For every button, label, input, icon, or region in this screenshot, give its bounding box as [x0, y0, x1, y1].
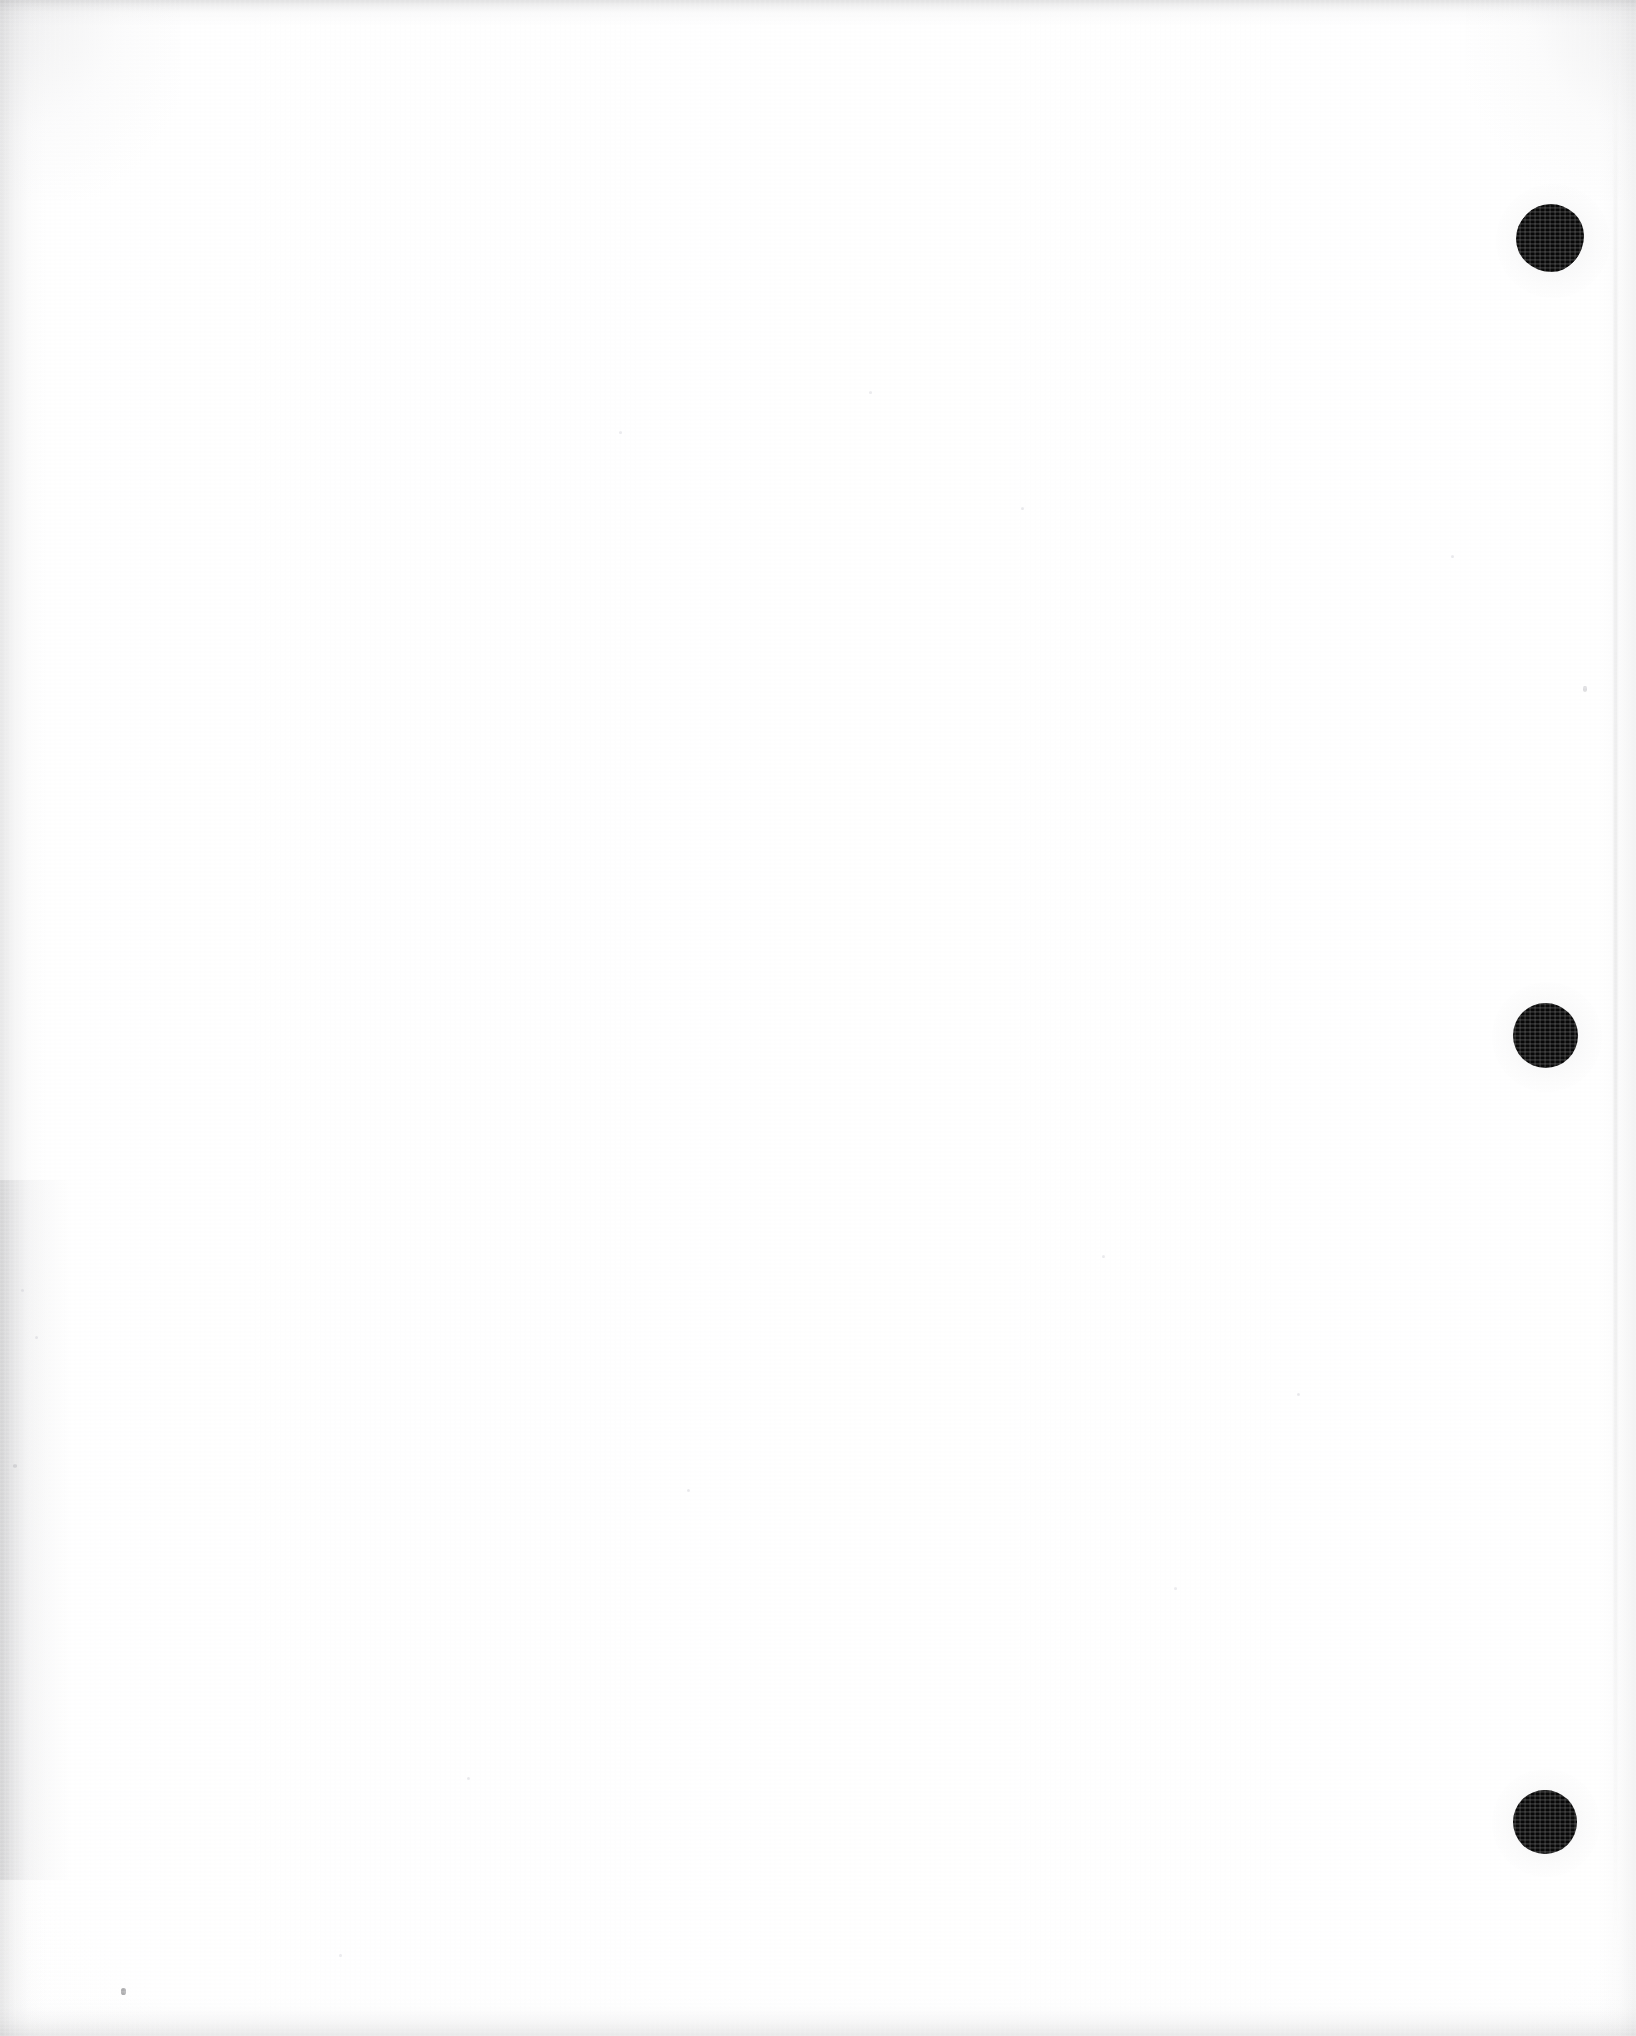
scan-speck [21, 1289, 24, 1292]
scan-speck [121, 1988, 126, 1995]
scan-speck [1583, 686, 1587, 692]
scan-speck [687, 1489, 690, 1492]
page-body-text [140, 150, 1440, 1850]
scan-speck [1451, 555, 1454, 558]
scan-speck [619, 431, 622, 434]
scan-speck [339, 1954, 342, 1957]
scanned-page [0, 0, 1636, 2036]
punch-dot-middle [1513, 1003, 1578, 1068]
punch-dot-bottom [1513, 1790, 1577, 1854]
scan-speck [13, 1464, 17, 1468]
scan-speck [1297, 1393, 1300, 1396]
scan-speck [35, 1336, 38, 1339]
scan-speck [1174, 1587, 1177, 1590]
scan-speck [1021, 507, 1024, 510]
scan-speck [467, 1777, 470, 1780]
punch-dot-top [1517, 205, 1583, 271]
scan-speck [1102, 1255, 1105, 1258]
scan-speck [869, 391, 872, 394]
